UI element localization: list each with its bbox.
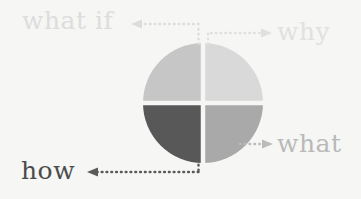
- quadrant-dividers: [141, 41, 265, 165]
- label-what: what: [277, 131, 341, 156]
- how-arrowhead-icon: [87, 168, 98, 177]
- why-connector: [208, 29, 272, 45]
- what-arrowhead-icon: [262, 140, 273, 149]
- what-if-arrowhead-icon: [131, 20, 142, 29]
- diagram-canvas: what if why what how: [0, 0, 361, 199]
- quadrant-top-right: [203, 43, 263, 103]
- label-why: why: [277, 19, 330, 44]
- quadrant-bottom-right: [203, 103, 263, 163]
- what-if-connector: [131, 20, 199, 45]
- how-connector: [87, 160, 199, 177]
- label-how: how: [21, 158, 75, 183]
- quadrant-bottom-left: [143, 103, 203, 163]
- label-what-if: what if: [22, 8, 113, 33]
- quadrant-top-left: [143, 43, 203, 103]
- why-arrowhead-icon: [261, 29, 272, 38]
